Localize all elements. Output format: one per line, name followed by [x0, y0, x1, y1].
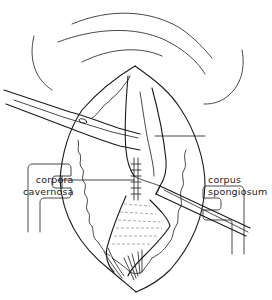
corpus-spongiosum-tissue: [125, 76, 166, 186]
label-corpora-cavernosa-line1: corpora: [23, 174, 74, 186]
label-corpora-cavernosa: corpora cavernosa: [23, 174, 74, 198]
incision-opening: [60, 66, 205, 292]
label-corpus-spongiosum: corpus spongiosum: [208, 174, 268, 198]
label-corpus-spongiosum-line2: spongiosum: [208, 186, 268, 198]
sutured-corpora: [104, 158, 170, 280]
label-corpora-cavernosa-line2: cavernosa: [23, 186, 74, 198]
upper-left-forceps: [4, 90, 140, 150]
skin-fold-lines: [32, 13, 243, 104]
label-corpus-spongiosum-line1: corpus: [208, 174, 268, 186]
surgical-illustration: corpora cavernosa corpus spongiosum: [0, 0, 272, 300]
